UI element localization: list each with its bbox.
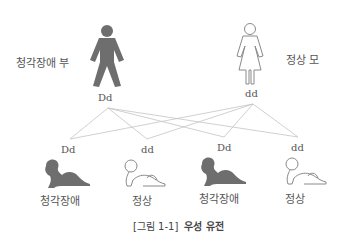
figure-caption: [그림 1-1]우성 유전 xyxy=(133,218,224,233)
child-3-label: 청각장애 xyxy=(199,190,239,206)
father-genotype: Dd xyxy=(98,92,112,103)
child-2-genotype: dd xyxy=(141,144,154,155)
normal-baby-icon xyxy=(286,158,326,184)
child-4-genotype: dd xyxy=(291,142,304,153)
figure-title: 우성 유전 xyxy=(184,221,223,232)
mother-label: 정상 모 xyxy=(286,51,320,67)
child-2-label: 정상 xyxy=(132,192,152,208)
mother-genotype: dd xyxy=(245,88,258,99)
figure-number: [그림 1-1] xyxy=(133,221,178,232)
male-figure-icon xyxy=(90,25,124,87)
father-label: 청각장애 부 xyxy=(16,54,70,70)
child-3-genotype: Dd xyxy=(217,142,231,153)
child-4-label: 정상 xyxy=(285,190,305,206)
child-1-genotype: Dd xyxy=(61,144,75,155)
affected-baby-icon xyxy=(45,160,90,188)
affected-baby-icon xyxy=(201,158,246,186)
child-1-label: 청각장애 xyxy=(40,192,80,208)
female-figure-icon xyxy=(237,24,263,85)
normal-baby-icon xyxy=(125,160,165,186)
